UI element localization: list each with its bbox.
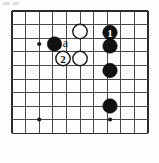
stone-move-number: 2 — [60, 53, 66, 65]
stone-move-number: 1 — [107, 27, 113, 39]
star-point-lower-left — [37, 117, 41, 121]
board-point-markers: a — [63, 36, 69, 50]
go-diagram-figure: a 12 — [0, 0, 159, 163]
black-stone-right-upper[interactable] — [103, 39, 117, 53]
black-stone-disc — [103, 63, 117, 77]
white-stone-lower[interactable] — [73, 51, 87, 65]
black-stone-right-lower[interactable] — [103, 99, 117, 113]
star-point-upper-left — [37, 42, 41, 46]
white-stone-upper[interactable] — [73, 24, 87, 38]
black-stone-move-1[interactable]: 1 — [103, 25, 117, 39]
point-marker-a: a — [63, 36, 69, 50]
white-stone-disc — [73, 24, 87, 38]
black-stone-disc — [103, 99, 117, 113]
go-board[interactable]: a 12 — [0, 0, 159, 163]
go-board-canvas[interactable]: a 12 — [0, 0, 159, 163]
black-stone-left[interactable] — [47, 37, 61, 51]
white-stone-move-2[interactable]: 2 — [56, 51, 70, 65]
white-stone-disc — [73, 51, 87, 65]
black-stone-disc — [103, 39, 117, 53]
black-stone-right-middle[interactable] — [103, 63, 117, 77]
board-stones[interactable]: 12 — [47, 24, 117, 113]
black-stone-disc — [47, 37, 61, 51]
star-point-lower-right — [108, 117, 112, 121]
